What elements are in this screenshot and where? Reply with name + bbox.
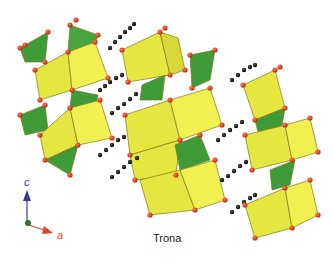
figure-title: Trona — [153, 232, 181, 244]
trona-structure-figure: c a Trona — [0, 0, 333, 265]
axis-indicator — [23, 190, 53, 234]
crystal-structure-drawing — [0, 0, 333, 265]
c-axis-label: c — [24, 176, 30, 188]
a-axis-label: a — [57, 229, 63, 241]
c-axis-arrow-icon — [23, 190, 31, 201]
origin-icon — [25, 220, 31, 226]
a-axis-arrow-icon — [42, 226, 53, 234]
